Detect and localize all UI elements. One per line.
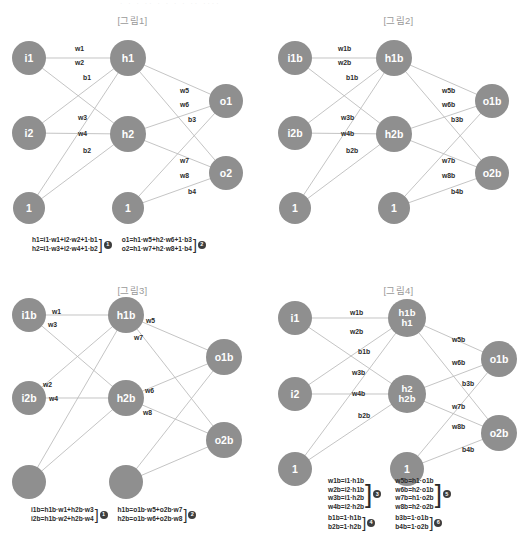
- edge-label-w5b: w5b: [452, 336, 465, 343]
- figure-panel-1: [그림1] i1i21h1h21o1o2w1w2b1w3w4b2w5w6b3w7…: [0, 0, 265, 269]
- figure-panel-2: [그림2] i1bi2b1h1bh2b1o1bo2bw1bw2bb1bw3bw4…: [266, 0, 531, 269]
- edge-label-w5: w5: [180, 87, 189, 94]
- edge-label-w6b: w6b: [442, 101, 455, 108]
- connection-edge: [295, 394, 407, 469]
- node-hidden-2: h2b: [108, 380, 144, 416]
- node-label: o1: [220, 96, 232, 107]
- edge-label-b1b: b1b: [358, 348, 370, 355]
- edge-label-w2b: w2b: [350, 328, 363, 335]
- closing-brace-icon: ]: [435, 481, 442, 507]
- figure-canvas-2: i1bi2b1h1bh2b1o1bo2bw1bw2bb1bw3bw4bb2bw5…: [266, 0, 531, 269]
- node-label-secondary: h1: [401, 318, 412, 328]
- node-input-bias: 1: [278, 452, 312, 486]
- edge-label-w8b: w8b: [452, 423, 465, 430]
- node-label: 1: [391, 203, 397, 214]
- node-label: 1: [292, 464, 298, 475]
- node-hidden-1: h1: [110, 40, 146, 76]
- node-label: h1: [122, 53, 134, 64]
- node-label: h2: [122, 129, 134, 140]
- formula-block: h1=i1·w1+i2·w2+1·b1 h2=i1·w3+i2·w4+1·b2]…: [32, 236, 206, 253]
- formula-block: w1b=i1·h1b w2b=i2·h1b w3b=i1·h2b w4b=i2·…: [328, 477, 451, 531]
- figure-canvas-3: i1bi2bh1bh2bo1bo2bw1w3w2w4w5w7w6w8i1b=h1…: [0, 270, 265, 539]
- edge-label-w1: w1: [75, 45, 84, 52]
- formula-text: b1b=1·h1b b2b=1·h2b: [328, 514, 361, 531]
- connection-edge: [29, 398, 126, 482]
- node-label: h1b: [117, 310, 136, 321]
- formula-group: i1b=h1b·w1+h2b·w3 i2b=h1b·w2+h2b·w4]1: [31, 506, 108, 523]
- node-label: o1b: [215, 352, 234, 363]
- formula-group: h1b=o1b·w5+o2b·w7 h2b=o1b·w6+o2b·w8]2: [118, 506, 197, 523]
- node-label: o1b: [483, 96, 502, 107]
- edge-label-b1: b1: [83, 74, 91, 81]
- node-input-2: i2: [12, 116, 46, 150]
- node-output-1: o1b: [475, 84, 509, 118]
- edge-label-b3: b3: [188, 116, 196, 123]
- node-label: o1b: [490, 354, 509, 365]
- node-label: o2b: [483, 168, 502, 179]
- node-label: 1: [404, 464, 410, 475]
- closing-brace-icon: ]: [193, 238, 197, 252]
- node-input-2: i2: [278, 377, 312, 411]
- node-input-1: i1b: [12, 298, 46, 332]
- node-output-1: o1b: [206, 339, 242, 375]
- edge-label-w7b: w7b: [442, 157, 455, 164]
- formula-group: h1=i1·w1+i2·w2+1·b1 h2=i1·w3+i2·w4+1·b2]…: [32, 236, 112, 253]
- edge-label-b2b: b2b: [358, 412, 370, 419]
- edge-label-w1b: w1b: [338, 45, 351, 52]
- edge-label-b4: b4: [188, 188, 196, 195]
- formula-group: b1b=1·h1b b2b=1·h2b]4: [328, 514, 381, 531]
- node-hidden-2: h2b: [376, 116, 412, 152]
- node-label: i2: [25, 128, 34, 139]
- node-label: o2b: [215, 435, 234, 446]
- formula-text: o1=h1·w5+h2·w6+1·b3 o2=h1·w7+h2·w8+1·b4: [122, 236, 192, 253]
- node-hidden-1: h1b: [376, 40, 412, 76]
- formula-text: w5b=h1·o1b w6b=h2·o1b w7b=h1·o2b w8b=h2·…: [395, 477, 433, 512]
- node-hidden-bias: 1: [378, 192, 410, 224]
- node-hidden-1: h1b: [108, 297, 144, 333]
- figure-canvas-4: i1i21h1bh1h2h2b1o1bo2bw1bw2bb1bw3bw4bb2b…: [266, 270, 531, 539]
- node-label: i1b: [21, 310, 36, 321]
- node-hidden-1: h1bh1: [388, 299, 426, 337]
- edge-label-w2: w2: [43, 381, 52, 388]
- connection-edge: [407, 359, 499, 469]
- edge-label-w1: w1: [52, 308, 61, 315]
- edge-label-b3b: b3b: [451, 116, 463, 123]
- formula-text: h1=i1·w1+i2·w2+1·b1 h2=i1·w3+i2·w4+1·b2: [32, 236, 98, 253]
- node-label: h1b: [385, 53, 404, 64]
- closing-brace-icon: ]: [365, 481, 372, 507]
- formula-group: w5b=h1·o1b w6b=h2·o1b w7b=h1·o2b w8b=h2·…: [395, 477, 451, 512]
- edge-label-w7: w7: [180, 157, 189, 164]
- closing-brace-icon: ]: [95, 508, 99, 522]
- formula-group: w1b=i1·h1b w2b=i2·h1b w3b=i1·h2b w4b=i2·…: [328, 477, 381, 512]
- node-label-secondary: h2b: [399, 394, 416, 404]
- edge-label-w1b: w1b: [350, 309, 363, 316]
- connection-edge: [126, 357, 224, 482]
- node-label: 1: [292, 203, 298, 214]
- node-label: o2: [220, 168, 232, 179]
- node-label: i1: [291, 313, 300, 324]
- node-label: i2b: [21, 393, 36, 404]
- figure-canvas-1: i1i21h1h21o1o2w1w2b1w3w4b2w5w6b3w7w8b4h1…: [0, 0, 265, 269]
- connection-edge: [128, 101, 226, 208]
- connection-edge: [128, 58, 226, 173]
- closing-brace-icon: ]: [362, 516, 366, 530]
- edge-label-w7b: w7b: [452, 403, 465, 410]
- formula-badge: 5: [443, 490, 451, 498]
- formula-badge: 6: [434, 519, 442, 527]
- closing-brace-icon: ]: [430, 516, 434, 530]
- edge-label-b1b: b1b: [346, 74, 358, 81]
- edge-label-b2b: b2b: [346, 147, 358, 154]
- node-input-1: i1: [278, 301, 312, 335]
- node-label: o2b: [490, 428, 509, 439]
- node-output-1: o1b: [481, 341, 517, 377]
- node-input-1: i1b: [278, 41, 312, 75]
- node-label: i2b: [287, 128, 302, 139]
- node-label: 1: [125, 203, 131, 214]
- edge-label-w8: w8: [180, 172, 189, 179]
- formula-badge: 2: [188, 511, 196, 519]
- node-output-2: o2b: [481, 415, 517, 451]
- closing-brace-icon: ]: [99, 238, 103, 252]
- edge-label-b2: b2: [83, 147, 91, 154]
- formula-text: h1b=o1b·w5+o2b·w7 h2b=o1b·w6+o2b·w8: [118, 506, 183, 523]
- edge-label-w4: w4: [49, 395, 58, 402]
